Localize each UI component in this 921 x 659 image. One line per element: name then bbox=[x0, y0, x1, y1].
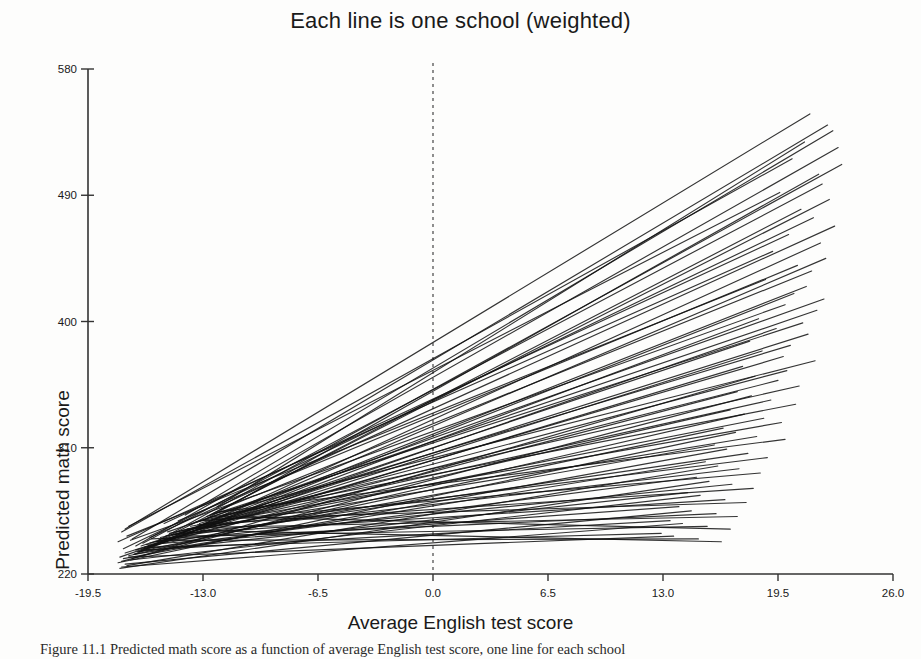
y-tick-label: 220 bbox=[58, 568, 77, 580]
school-lines-group bbox=[118, 114, 842, 569]
y-tick-label: 400 bbox=[58, 316, 77, 328]
figure-caption: Figure 11.1 Predicted math score as a fu… bbox=[40, 641, 900, 659]
school-line bbox=[123, 449, 726, 558]
school-line bbox=[159, 164, 842, 540]
school-line bbox=[129, 192, 780, 526]
x-tick-label: 6.5 bbox=[540, 587, 556, 599]
school-line bbox=[141, 341, 750, 546]
chart-svg: 220310400490580 -19.5-13.0-6.50.06.513.0… bbox=[0, 0, 921, 600]
y-tick-label: 310 bbox=[58, 442, 77, 454]
x-tick-label: 13.0 bbox=[652, 587, 674, 599]
y-tick-label: 490 bbox=[58, 189, 77, 201]
x-tick-label: 19.5 bbox=[767, 587, 789, 599]
school-line bbox=[122, 159, 793, 532]
school-line bbox=[130, 305, 785, 541]
x-tick-label: -13.0 bbox=[190, 587, 216, 599]
x-tick-label: 0.0 bbox=[425, 587, 441, 599]
x-tick-label: 26.0 bbox=[882, 587, 904, 599]
plot-area: 220310400490580 -19.5-13.0-6.50.06.513.0… bbox=[0, 0, 921, 600]
x-axis-label: Average English test score bbox=[0, 612, 921, 634]
x-tick-group: -19.5-13.0-6.50.06.513.019.526.0 bbox=[75, 574, 904, 599]
school-line bbox=[139, 258, 825, 551]
x-tick-label: -6.5 bbox=[308, 587, 328, 599]
x-tick-label: -19.5 bbox=[75, 587, 101, 599]
figure-container: Each line is one school (weighted) Predi… bbox=[0, 0, 921, 659]
y-tick-label: 580 bbox=[58, 63, 77, 75]
